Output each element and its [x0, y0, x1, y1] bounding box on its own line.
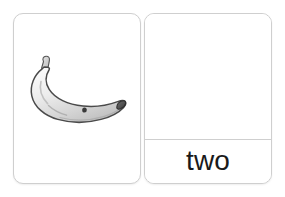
- word-card[interactable]: two: [144, 13, 272, 184]
- word-label: two: [186, 147, 230, 177]
- picture-card[interactable]: [13, 13, 141, 184]
- word-card-blank-area: [145, 14, 271, 139]
- word-label-panel: two: [145, 140, 271, 183]
- flashcard-pair: two: [0, 0, 285, 197]
- banana-illustration-icon: [22, 54, 134, 132]
